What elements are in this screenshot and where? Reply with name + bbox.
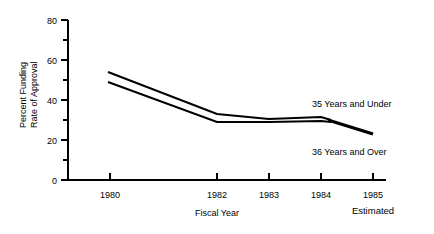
x-tick-label-1985: 1985 <box>363 190 383 200</box>
x-tick-label-1983: 1983 <box>259 190 279 200</box>
y-axis-major-ticks <box>61 20 68 180</box>
chart-canvas: 80 60 40 20 0 Percent Funding Rate of Ap… <box>0 0 434 234</box>
series-annotation-lower: 36 Years and Over <box>312 147 387 157</box>
x-axis-ticks <box>110 173 373 180</box>
x-tick-label-1982: 1982 <box>207 190 227 200</box>
y-tick-label-20: 20 <box>47 136 57 146</box>
series-line-35-and-under <box>108 72 331 120</box>
x-tick-label-1980: 1980 <box>100 190 120 200</box>
y-tick-label-0: 0 <box>52 176 57 186</box>
x-axis-title: Fiscal Year <box>195 208 239 218</box>
funding-rate-line-chart: 80 60 40 20 0 Percent Funding Rate of Ap… <box>0 0 434 234</box>
estimated-note: Estimated <box>352 205 394 216</box>
y-tick-label-40: 40 <box>47 96 57 106</box>
y-tick-label-60: 60 <box>47 56 57 66</box>
y-axis-title-line2: Rate of Approval <box>29 61 39 128</box>
x-tick-label-1984: 1984 <box>311 190 331 200</box>
y-axis-title-line1: Percent Funding <box>18 62 28 128</box>
y-tick-label-80: 80 <box>47 16 57 26</box>
series-line-36-and-over <box>108 82 331 122</box>
series-annotation-upper: 35 Years and Under <box>312 99 392 109</box>
series-line-merged-segment <box>328 120 373 134</box>
